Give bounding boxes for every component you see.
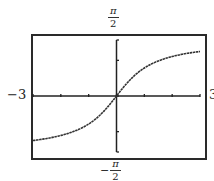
- y-min-sign: −: [100, 164, 109, 177]
- y-max-numerator: π: [108, 6, 119, 18]
- y-min-denominator: 2: [112, 171, 118, 181]
- y-max-label: π 2: [108, 6, 119, 29]
- y-min-label: − π 2: [100, 159, 121, 181]
- x-max-label: 3: [209, 88, 214, 101]
- plot-area: [0, 0, 214, 181]
- y-min-numerator: π: [110, 159, 121, 171]
- y-max-denominator: 2: [110, 18, 116, 29]
- x-min-label: −3: [7, 88, 26, 101]
- y-min-fraction: π 2: [110, 159, 121, 181]
